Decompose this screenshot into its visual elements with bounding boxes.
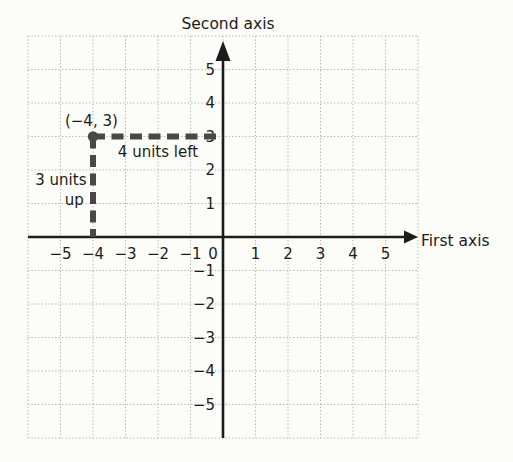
annotation-label: 3 units — [35, 171, 86, 189]
x-tick-label: −1 — [179, 245, 201, 263]
annotation-label: (−4, 3) — [65, 112, 118, 130]
y-tick-label: 2 — [205, 161, 215, 179]
x-axis-arrow-icon — [404, 231, 418, 244]
y-axis-arrow-icon — [216, 41, 231, 61]
plotted-point — [88, 131, 98, 141]
y-tick-label: −4 — [193, 362, 215, 380]
y-tick-label: −2 — [193, 295, 215, 313]
y-tick-label: −5 — [193, 396, 215, 414]
x-tick-label: −2 — [147, 245, 169, 263]
y-tick-label: 5 — [205, 61, 215, 79]
x-tick-label: 1 — [251, 245, 261, 263]
x-tick-label: 4 — [348, 245, 358, 263]
x-tick-label: −4 — [82, 245, 104, 263]
annotation-label: 4 units left — [118, 143, 198, 161]
x-tick-label: −3 — [114, 245, 136, 263]
y-axis-title: Second axis — [181, 15, 274, 33]
coordinate-plane: Second axis First axis −5−4−3−2−1012345−… — [0, 0, 513, 462]
x-axis-title: First axis — [421, 232, 490, 250]
x-tick-label: −5 — [49, 245, 71, 263]
x-tick-label: 5 — [381, 245, 391, 263]
annotation-label: up — [65, 191, 84, 209]
x-tick-label: 3 — [316, 245, 326, 263]
x-tick-label: 0 — [208, 245, 218, 263]
chart-layer: −5−4−3−2−1012345−5−4−3−2−112345(−4, 3)4 … — [28, 36, 418, 438]
x-tick-label: 2 — [283, 245, 293, 263]
y-tick-label: 4 — [205, 94, 215, 112]
y-tick-label: −1 — [193, 262, 215, 280]
y-tick-label: 1 — [205, 195, 215, 213]
figure: Second axis First axis −5−4−3−2−1012345−… — [0, 0, 513, 462]
y-tick-label: −3 — [193, 329, 215, 347]
